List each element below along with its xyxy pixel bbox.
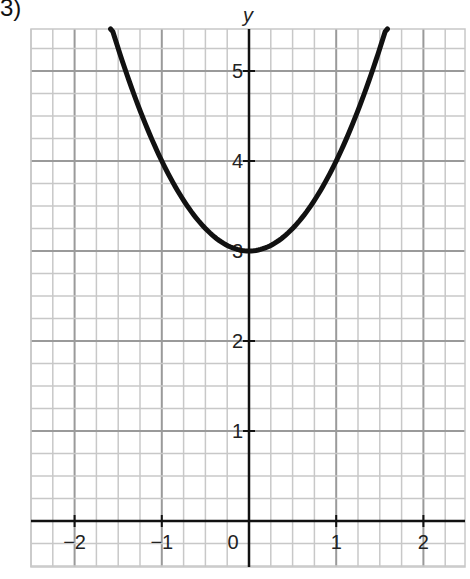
x-tick-label: 2 bbox=[418, 531, 429, 553]
y-tick-label: 4 bbox=[232, 150, 243, 172]
y-axis-label: y bbox=[241, 4, 254, 26]
y-tick-label: 5 bbox=[232, 60, 243, 82]
y-tick-label: 1 bbox=[232, 420, 243, 442]
x-tick-label: 1 bbox=[331, 531, 342, 553]
y-tick-label: 2 bbox=[232, 330, 243, 352]
x-tick-label: 0 bbox=[227, 531, 238, 553]
parabola-chart: −2−101212345 y bbox=[0, 0, 470, 579]
x-tick-label: −1 bbox=[150, 531, 173, 553]
x-tick-label: −2 bbox=[63, 531, 86, 553]
